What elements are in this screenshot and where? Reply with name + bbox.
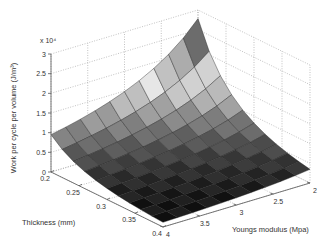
x-tick-label: 0.4 <box>152 230 162 237</box>
z-tick-label: 1.5 <box>36 110 46 117</box>
z-tick-label: 1 <box>42 129 46 136</box>
x-tick-label: 0.25 <box>66 189 80 196</box>
y-tick-label: 2 <box>313 187 317 194</box>
surface <box>51 19 310 223</box>
x-tick-label: 0.35 <box>122 216 136 223</box>
y-axis-label: Youngs modulus (Mpa) <box>232 225 309 234</box>
x-tick-label: 0.2 <box>40 175 50 182</box>
x-axis-label: Thickness (mm) <box>22 218 76 227</box>
surface-plot: 00.511.522.530.20.250.30.350.422.533.54 … <box>0 0 335 244</box>
z-tick-label: 0.5 <box>36 149 46 156</box>
z-axis-label: Work per cycle per volume (J/m³) <box>9 62 18 173</box>
z-tick-label: 2 <box>42 90 46 97</box>
y-tick-label: 3 <box>240 209 244 216</box>
surface-plot-figure: 00.511.522.530.20.250.30.350.422.533.54 … <box>0 0 335 244</box>
y-tick-label: 2.5 <box>273 198 283 205</box>
y-tick-label: 4 <box>166 231 170 238</box>
x-tick-label: 0.3 <box>96 203 106 210</box>
z-multiplier-label: x 10⁴ <box>40 37 56 44</box>
y-tick-label: 3.5 <box>200 220 210 227</box>
z-tick-label: 3 <box>42 51 46 58</box>
z-tick-label: 2.5 <box>36 70 46 77</box>
